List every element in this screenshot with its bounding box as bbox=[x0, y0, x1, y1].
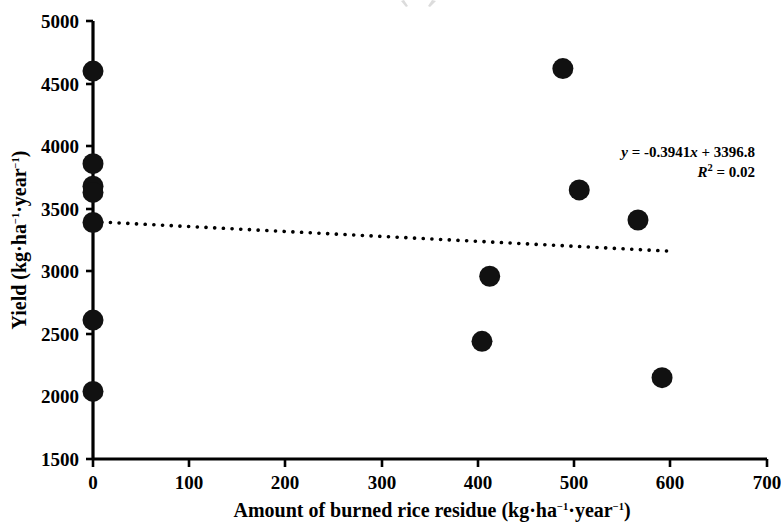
y-tick-label: 1500 bbox=[41, 449, 79, 470]
x-tick-label: 300 bbox=[368, 472, 397, 493]
data-point bbox=[83, 182, 104, 203]
x-tick-label: 100 bbox=[175, 472, 204, 493]
x-tick-label: 600 bbox=[656, 472, 685, 493]
data-point bbox=[471, 331, 492, 352]
axes-group bbox=[86, 21, 767, 467]
data-point bbox=[83, 212, 104, 233]
cropped-panel-label-remnant bbox=[401, 0, 436, 7]
y-tick-label: 3000 bbox=[41, 261, 79, 282]
x-tick-label: 400 bbox=[464, 472, 493, 493]
y-axis-title: Yield (kg·ha−1·year−1) bbox=[8, 151, 31, 330]
plot-canvas: 5000 4500 4000 3500 3000 2500 2000 1500 … bbox=[0, 0, 781, 525]
data-point bbox=[479, 266, 500, 287]
y-tick-label: 4000 bbox=[41, 136, 79, 157]
scatter-chart: 5000 4500 4000 3500 3000 2500 2000 1500 … bbox=[0, 0, 781, 525]
data-point bbox=[627, 209, 648, 230]
data-point bbox=[569, 179, 590, 200]
y-tick-label: 4500 bbox=[41, 74, 79, 95]
regression-equation-label: y = -0.3941x + 3396.8 bbox=[619, 144, 755, 160]
data-point bbox=[83, 381, 104, 402]
x-tick-labels: 0 100 200 300 400 500 600 700 bbox=[88, 472, 781, 493]
data-point bbox=[83, 310, 104, 331]
y-tick-labels: 5000 4500 4000 3500 3000 2500 2000 1500 bbox=[41, 11, 79, 470]
data-point bbox=[552, 58, 573, 79]
data-point bbox=[652, 367, 673, 388]
data-point bbox=[83, 61, 104, 82]
y-tick-label: 3500 bbox=[41, 199, 79, 220]
y-tick-label: 2000 bbox=[41, 386, 79, 407]
x-axis-title: Amount of burned rice residue (kg·ha−1·y… bbox=[233, 499, 630, 522]
y-tick-label: 2500 bbox=[41, 324, 79, 345]
data-point bbox=[83, 153, 104, 174]
r-squared-label: R2 = 0.02 bbox=[696, 162, 755, 180]
x-tick-label: 200 bbox=[271, 472, 300, 493]
x-tick-label: 500 bbox=[560, 472, 589, 493]
x-tick-label: 0 bbox=[88, 472, 98, 493]
regression-trendline bbox=[93, 222, 668, 251]
y-tick-label: 5000 bbox=[41, 11, 79, 32]
x-tick-label: 700 bbox=[753, 472, 781, 493]
data-points-group bbox=[83, 58, 673, 402]
